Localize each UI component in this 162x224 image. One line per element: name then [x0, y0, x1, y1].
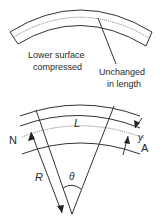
angle-arc	[63, 185, 81, 189]
arc-inner	[22, 143, 140, 154]
radial-line-left	[36, 110, 72, 214]
label-angle: θ	[69, 171, 75, 182]
label-unchanged-2: in length	[107, 79, 141, 89]
label-point-a: A	[141, 142, 149, 154]
beam-right-end	[146, 32, 152, 46]
label-radius: R	[35, 171, 43, 183]
beam-left-end	[10, 32, 18, 44]
bent-segment	[20, 105, 144, 214]
label-lower-surface-1: Lower surface	[28, 50, 85, 60]
label-neutral: N	[9, 134, 17, 146]
leader-line	[98, 18, 116, 64]
beam-bending-diagram: Lower surface compressed Unchanged in le…	[0, 0, 162, 224]
label-length: L	[74, 117, 80, 129]
beam-lower-surface	[18, 25, 146, 46]
label-lower-surface-2: compressed	[33, 62, 82, 72]
arrow-y-bottom-icon	[124, 136, 130, 144]
arrow-r-icon	[57, 205, 64, 213]
label-unchanged-1: Unchanged	[99, 67, 145, 77]
arc-neutral	[22, 126, 144, 138]
